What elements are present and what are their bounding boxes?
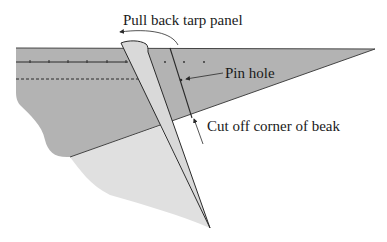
pin-hole-label: Pin hole — [225, 65, 275, 81]
cut-off-label: Cut off corner of beak — [207, 118, 341, 134]
pin-hole-dot — [180, 79, 183, 82]
cut-off-leader-arrow — [194, 119, 203, 144]
pull-back-label: Pull back tarp panel — [123, 12, 243, 28]
main-tarp-band — [16, 48, 375, 157]
tarp-beak-diagram: Pull back tarp panel Pin hole Cut off co… — [0, 0, 387, 242]
